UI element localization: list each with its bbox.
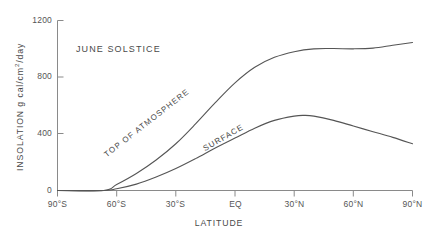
chart-title: JUNE SOLSTICE bbox=[76, 44, 161, 54]
x-tick-label-90s: 90°S bbox=[33, 199, 82, 209]
y-axis-ticks bbox=[58, 21, 64, 191]
x-axis-title: LATITUDE bbox=[0, 218, 438, 228]
insolation-latitude-chart: 1200 800 400 0 90°S 60°S 30°S EQ 30°N 60… bbox=[0, 0, 438, 235]
y-axis-title-suffix: /day bbox=[15, 43, 25, 63]
x-tick-label-30n: 30°N bbox=[270, 199, 319, 209]
y-tick-label-0: 0 bbox=[10, 185, 52, 195]
x-axis-ticks bbox=[58, 191, 413, 197]
y-axis-title-exponent: 2 bbox=[13, 63, 20, 67]
x-tick-label-eq: EQ bbox=[211, 199, 260, 209]
x-tick-label-30s: 30°S bbox=[151, 199, 200, 209]
x-tick-label-60s: 60°S bbox=[92, 199, 141, 209]
x-tick-label-60n: 60°N bbox=[329, 199, 378, 209]
x-tick-label-90n: 90°N bbox=[388, 199, 437, 209]
y-axis-title-prefix: INSOLATION g cal/cm bbox=[15, 67, 25, 171]
y-tick-label-1200: 1200 bbox=[10, 15, 52, 25]
series-top-of-atmosphere-curve bbox=[58, 42, 413, 190]
y-axis-title: INSOLATION g cal/cm2/day bbox=[13, 45, 25, 171]
